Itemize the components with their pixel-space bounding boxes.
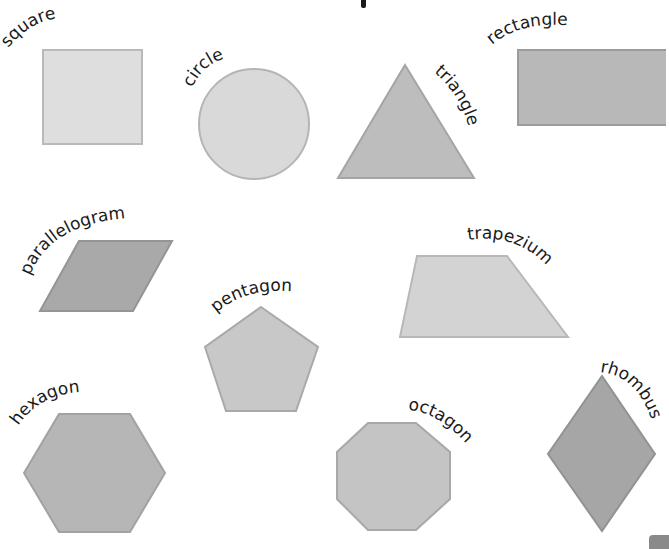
circle-shape xyxy=(199,69,309,179)
shape-triangle: triangle xyxy=(338,60,484,178)
trapezium-shape xyxy=(400,256,568,337)
shape-rectangle: rectangle xyxy=(482,9,666,125)
rectangle-label: rectangle xyxy=(482,9,568,48)
triangle-label: triangle xyxy=(431,60,484,128)
rectangle-shape xyxy=(518,50,666,125)
shape-hexagon: hexagon xyxy=(5,376,165,532)
parallelogram-shape xyxy=(40,241,172,311)
hexagon-shape xyxy=(24,414,165,532)
square-label: square xyxy=(0,3,57,51)
shape-pentagon: pentagon xyxy=(205,275,318,411)
shape-rhombus: rhombus xyxy=(548,356,666,531)
square-shape xyxy=(43,50,142,144)
shape-trapezium: trapezium xyxy=(400,223,568,337)
shape-circle: circle xyxy=(178,44,309,179)
shape-parallelogram: parallelogram xyxy=(15,202,172,311)
shape-octagon: octagon xyxy=(337,394,478,530)
shape-square: square xyxy=(0,3,142,144)
pentagon-shape xyxy=(205,307,318,411)
octagon-shape xyxy=(337,423,450,530)
pentagon-label: pentagon xyxy=(206,275,293,316)
corner-tab xyxy=(649,535,669,549)
